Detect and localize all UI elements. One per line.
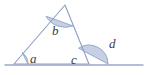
angle-label-d: d: [109, 36, 116, 51]
angle-label-b: b: [52, 23, 59, 38]
geometry-figure: a b c d: [0, 0, 148, 75]
geometry-diagram-canvas: a b c d: [0, 0, 148, 75]
angle-label-c: c: [71, 52, 77, 67]
angle-label-a: a: [30, 51, 37, 66]
